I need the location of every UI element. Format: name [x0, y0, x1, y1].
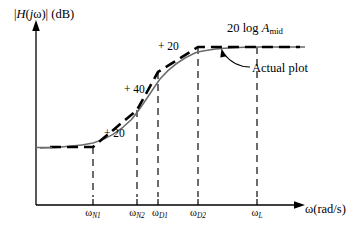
annotation-slope-plus-20-second: + 20	[158, 41, 179, 53]
annotation-actual-plot-text: Actual plot	[252, 61, 308, 75]
actual-plot-leader-arrowhead	[220, 49, 226, 58]
annotation-midband-gain: 20 log Amid	[227, 22, 283, 36]
breakpoint-droplines	[93, 47, 257, 197]
annotation-midband-gain-text: 20 log Amid	[227, 21, 283, 35]
y-axis-arrowhead	[32, 20, 40, 31]
annotation-slope-plus-20-first-text: + 20	[104, 127, 125, 139]
x-axis-label-text: ω(rad/s)	[305, 202, 346, 216]
annotation-slope-plus-20-second-text: + 20	[158, 40, 179, 52]
annotation-actual-plot: Actual plot	[252, 62, 308, 75]
tick-label-omega-l: ωL	[251, 208, 262, 219]
annotation-slope-plus-20-first: + 20	[104, 128, 125, 140]
actual-plot-leader	[220, 49, 250, 68]
y-axis-label-text: |H(jω)| (dB)	[14, 7, 74, 21]
bode-plot-figure: |H(jω)| (dB) ω(rad/s) 20 log Amid Actual…	[0, 0, 364, 232]
actual-plot-leader-line	[224, 54, 250, 67]
tick-label-omega-d2: ωD2	[190, 208, 206, 219]
tick-label-omega-d1: ωD1	[152, 208, 168, 219]
x-axis-ticks	[93, 199, 257, 205]
y-axis-label: |H(jω)| (dB)	[14, 8, 74, 21]
annotation-slope-plus-40-text: + 40	[124, 83, 145, 95]
bode-plot-canvas	[0, 0, 364, 232]
tick-label-omega-n1: ωN1	[85, 208, 101, 219]
tick-label-omega-n2: ωN2	[129, 208, 145, 219]
x-axis-label: ω(rad/s)	[305, 203, 346, 216]
x-axis-arrowhead	[294, 201, 305, 209]
annotation-slope-plus-40: + 40	[124, 84, 145, 96]
